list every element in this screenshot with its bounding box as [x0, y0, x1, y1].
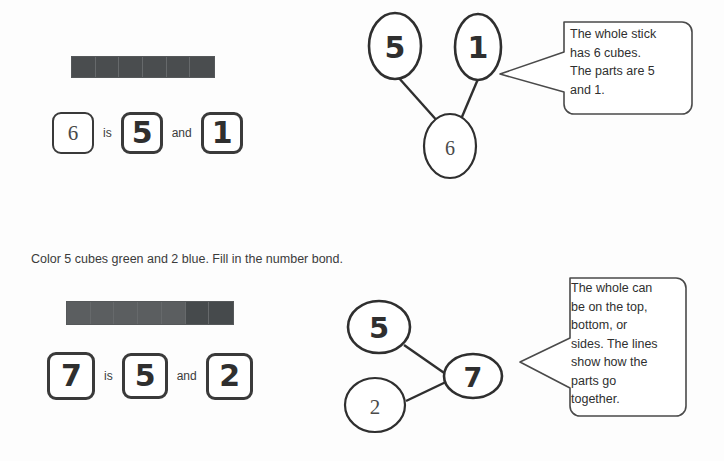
whole-box[interactable]: 7 — [47, 352, 95, 400]
part-b-box[interactable]: 1 — [201, 112, 243, 154]
callout-second-text: The whole can be on the top, bottom, or … — [571, 279, 693, 409]
connector-is: is — [95, 369, 122, 383]
bond-part-lower-value: 2 — [370, 395, 381, 419]
cube — [96, 57, 120, 77]
cube — [209, 302, 233, 324]
bond-whole-value: 7 — [464, 362, 483, 393]
cube — [162, 302, 186, 324]
part-b-value: 1 — [212, 118, 232, 148]
cube — [114, 302, 138, 324]
number-sentence-6: 6 is 5 and 1 — [52, 112, 243, 154]
cube — [143, 57, 167, 77]
part-a-box[interactable]: 5 — [121, 112, 163, 154]
whole-value: 6 — [68, 123, 79, 144]
cube — [119, 57, 143, 77]
callout-first-text: The whole stick has 6 cubes. The parts a… — [570, 25, 690, 99]
whole-box[interactable]: 6 — [52, 112, 94, 154]
part-a-value: 5 — [135, 361, 155, 391]
number-bond-6: 5 1 6 — [360, 5, 510, 185]
whole-value: 7 — [61, 361, 81, 391]
bond-part-upper-value: 5 — [369, 311, 389, 345]
connector-is: is — [94, 126, 121, 140]
connector-and: and — [168, 369, 206, 383]
cube — [67, 302, 91, 324]
cube — [190, 57, 214, 77]
part-a-value: 5 — [132, 118, 152, 148]
cube — [72, 57, 96, 77]
worksheet-page: 6 is 5 and 1 5 1 6 The whole stick has 6… — [0, 0, 724, 461]
cube-stick-7 — [66, 301, 234, 325]
part-a-box[interactable]: 5 — [122, 353, 168, 399]
instruction-line: Color 5 cubes green and 2 blue. Fill in … — [31, 252, 343, 266]
bond-part-right-value: 1 — [468, 30, 489, 65]
cube — [186, 302, 210, 324]
number-bond-7: 5 2 7 — [340, 295, 515, 440]
part-b-box[interactable]: 2 — [206, 353, 253, 400]
connector-and: and — [163, 126, 201, 140]
bond-whole-value: 6 — [445, 137, 455, 159]
cube — [167, 57, 191, 77]
cube — [138, 302, 162, 324]
part-b-value: 2 — [219, 361, 239, 391]
bond-line-lower — [406, 381, 448, 401]
number-sentence-7: 7 is 5 and 2 — [47, 352, 253, 400]
bond-part-left-value: 5 — [385, 30, 406, 65]
cube-stick-6 — [71, 56, 215, 78]
cube — [91, 302, 115, 324]
